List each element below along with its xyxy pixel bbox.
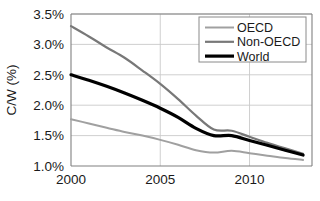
- legend-label-world[interactable]: World: [237, 50, 269, 64]
- series-line-oecd: [71, 119, 303, 160]
- x-tick-label: 2005: [145, 172, 175, 187]
- y-tick-label: 2.0%: [33, 98, 64, 113]
- legend-label-non-oecd[interactable]: Non-OECD: [237, 35, 300, 49]
- line-chart: 1.0%1.5%2.0%2.5%3.0%3.5% 200020052010 C/…: [0, 0, 320, 201]
- legend-label-oecd[interactable]: OECD: [237, 21, 273, 35]
- y-axis-title: C/W (%): [4, 65, 19, 116]
- x-tick-labels-group: 200020052010: [56, 172, 265, 187]
- y-tick-labels-group: 1.0%1.5%2.0%2.5%3.0%3.5%: [33, 7, 64, 174]
- y-tick-label: 3.5%: [33, 7, 64, 22]
- y-tick-label: 2.5%: [33, 68, 64, 83]
- y-tick-label: 1.5%: [33, 128, 64, 143]
- y-axis-title-group: C/W (%): [4, 65, 19, 116]
- x-tick-label: 2010: [234, 172, 264, 187]
- legend: OECDNon-OECDWorld: [199, 17, 306, 64]
- y-tick-label: 3.0%: [33, 37, 64, 52]
- chart-canvas: 1.0%1.5%2.0%2.5%3.0%3.5% 200020052010 C/…: [0, 0, 320, 201]
- x-tick-label: 2000: [56, 172, 86, 187]
